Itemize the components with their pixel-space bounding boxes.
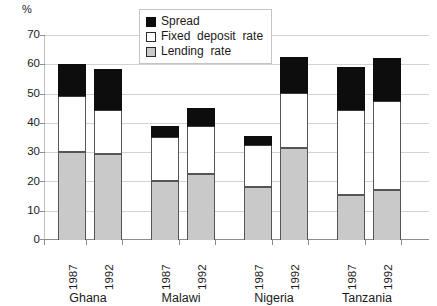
- x-tick-6: [308, 240, 309, 245]
- y-axis-tick-30: [40, 152, 45, 153]
- segment-fixed: [337, 111, 365, 194]
- segment-fixed: [151, 138, 179, 182]
- bar-malawi-1992: [187, 108, 215, 240]
- y-axis-tick-60: [40, 64, 45, 65]
- segment-lending: [94, 154, 122, 240]
- x-tick-1: [86, 240, 87, 245]
- y-axis-unit-label: %: [22, 4, 32, 15]
- x-tick-0: [44, 240, 45, 245]
- legend-label-fixed-deposit-rate: Fixed deposit rate: [161, 30, 263, 43]
- segment-fixed: [280, 94, 308, 148]
- legend-label-lending-rate: Lending rate: [161, 45, 231, 58]
- segment-lending: [280, 148, 308, 240]
- legend-item-spread: Spread: [146, 14, 263, 29]
- bar-nigeria-1992: [280, 57, 308, 240]
- segment-fixed: [373, 102, 401, 190]
- x-year-label-tanzania-1987: 1987: [346, 238, 358, 290]
- segment-spread: [337, 67, 365, 111]
- gridline-60: [44, 64, 429, 65]
- segment-spread: [58, 64, 86, 96]
- x-country-label-tanzania: Tanzania: [322, 292, 412, 305]
- segment-fixed: [58, 97, 86, 153]
- bar-malawi-1987: [151, 126, 179, 240]
- x-tick-3: [179, 240, 180, 245]
- legend-label-spread: Spread: [161, 15, 200, 28]
- segment-spread: [94, 69, 122, 111]
- x-year-label-ghana-1992: 1992: [103, 238, 115, 290]
- y-axis-tick-40: [40, 123, 45, 124]
- segment-fixed: [187, 127, 215, 174]
- segment-spread: [280, 57, 308, 94]
- x-country-label-nigeria: Nigeria: [229, 292, 319, 305]
- segment-lending: [244, 187, 272, 240]
- chart-legend: Spread Fixed deposit rate Lending rate: [139, 9, 272, 64]
- segment-spread: [244, 136, 272, 146]
- bar-ghana-1987: [58, 64, 86, 240]
- x-tick-7: [365, 240, 366, 245]
- segment-fixed: [244, 146, 272, 187]
- y-tick-label-60: 60: [6, 58, 40, 70]
- x-country-label-malawi: Malawi: [136, 292, 226, 305]
- gray-square-icon: [146, 47, 156, 57]
- bar-nigeria-1987: [244, 136, 272, 240]
- x-year-label-malawi-1992: 1992: [196, 238, 208, 290]
- x-year-label-malawi-1987: 1987: [160, 238, 172, 290]
- segment-lending: [151, 181, 179, 240]
- x-year-label-nigeria-1992: 1992: [289, 238, 301, 290]
- segment-lending: [187, 174, 215, 240]
- y-tick-label-20: 20: [6, 176, 40, 188]
- segment-spread: [151, 126, 179, 138]
- y-axis-line: [44, 35, 45, 240]
- segment-lending: [58, 152, 86, 240]
- x-year-label-tanzania-1992: 1992: [382, 238, 394, 290]
- y-tick-label-30: 30: [6, 146, 40, 158]
- legend-item-fixed-deposit-rate: Fixed deposit rate: [146, 29, 263, 44]
- y-tick-label-40: 40: [6, 117, 40, 129]
- segment-lending: [373, 190, 401, 240]
- x-year-label-nigeria-1987: 1987: [253, 238, 265, 290]
- y-axis-tick-70: [40, 35, 45, 36]
- x-country-label-ghana: Ghana: [43, 292, 133, 305]
- segment-spread: [187, 108, 215, 127]
- y-tick-label-0: 0: [6, 234, 40, 246]
- x-tick-5: [272, 240, 273, 245]
- plot-area: [44, 35, 429, 240]
- y-tick-label-70: 70: [6, 29, 40, 41]
- y-tick-label-10: 10: [6, 205, 40, 217]
- x-tick-4: [215, 240, 216, 245]
- y-tick-label-50: 50: [6, 88, 40, 100]
- segment-lending: [337, 195, 365, 240]
- stacked-bar-chart: % 70 60 50 40 30 20 10 0: [0, 0, 437, 306]
- x-year-label-ghana-1987: 1987: [67, 238, 79, 290]
- x-tick-2: [122, 240, 123, 245]
- bar-tanzania-1987: [337, 67, 365, 240]
- x-axis: 1987 1992 1987 1992 1987 1992 1987 1992 …: [44, 240, 429, 306]
- y-axis-tick-20: [40, 181, 45, 182]
- y-axis: % 70 60 50 40 30 20 10 0: [0, 0, 40, 306]
- black-square-icon: [146, 17, 156, 27]
- white-square-icon: [146, 32, 156, 42]
- bar-tanzania-1992: [373, 58, 401, 240]
- bar-ghana-1992: [94, 69, 122, 240]
- y-axis-tick-50: [40, 94, 45, 95]
- x-tick-8: [401, 240, 402, 245]
- segment-spread: [373, 58, 401, 102]
- legend-item-lending-rate: Lending rate: [146, 44, 263, 59]
- y-axis-tick-10: [40, 211, 45, 212]
- segment-fixed: [94, 111, 122, 153]
